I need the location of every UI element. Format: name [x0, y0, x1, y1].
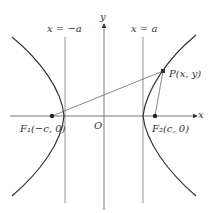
focus-f1-point [50, 114, 54, 118]
hyperbola-right-branch [143, 35, 196, 196]
hyperbola-left-branch [12, 37, 64, 196]
left-line-label: x = −a [47, 24, 82, 34]
x-axis-label: x [198, 110, 204, 120]
point-p [161, 69, 165, 73]
y-axis-label: y [100, 12, 106, 22]
focus-f2-point [153, 114, 157, 118]
diagram-canvas [0, 0, 217, 213]
focus-f2-label: F₂(c, 0) [152, 124, 189, 134]
hyperbola-diagram: y x O x = −a x = a P(x, y) F₁(−c, 0) F₂(… [0, 0, 217, 213]
point-p-label: P(x, y) [169, 69, 201, 79]
line-f2-to-p [155, 71, 163, 116]
right-line-label: x = a [131, 24, 157, 34]
origin-label: O [94, 121, 102, 131]
line-f1-to-p [52, 71, 163, 116]
focus-f1-label: F₁(−c, 0) [20, 124, 65, 134]
